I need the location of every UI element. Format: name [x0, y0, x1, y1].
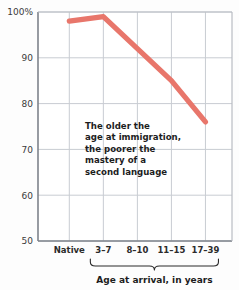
annotation-line-1: age at immigration, [85, 132, 181, 142]
x-tick-label-0: Native [54, 245, 85, 255]
x-tick-label-2: 8–10 [126, 245, 148, 255]
x-axis-tick-labels: Native3–78–1011–1517–39 [54, 245, 220, 255]
y-tick-label-90: 90 [22, 53, 34, 63]
y-tick-label-70: 70 [22, 145, 34, 155]
x-axis-caption: Age at arrival, in years [96, 275, 212, 285]
y-tick-label-80: 80 [22, 99, 34, 109]
x-tick-label-4: 17–39 [191, 245, 219, 255]
annotation-line-0: The older the [85, 121, 150, 131]
language-mastery-line-chart: 5060708090100% Native3–78–1011–1517–39 T… [0, 0, 239, 290]
x-tick-label-1: 3–7 [95, 245, 111, 255]
annotation-line-2: the poorer the [85, 144, 156, 154]
y-tick-label-100: 100% [7, 7, 33, 17]
y-tick-label-60: 60 [22, 191, 34, 201]
chart-svg: 5060708090100% Native3–78–1011–1517–39 T… [0, 0, 239, 290]
annotation-line-4: second language [85, 167, 167, 177]
x-tick-label-3: 11–15 [157, 245, 185, 255]
annotation-line-3: mastery of a [85, 155, 146, 165]
y-tick-label-50: 50 [22, 236, 34, 246]
